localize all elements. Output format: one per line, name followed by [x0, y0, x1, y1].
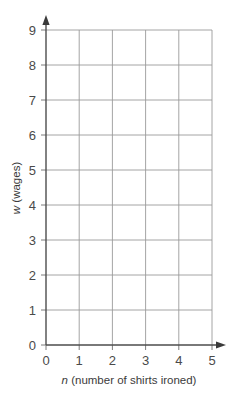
chart-canvas: 0 1 2 3 4 5 6 7 8 9 0 1 2 3 4 5 n (numbe…: [0, 0, 234, 400]
y-tick-label-7: 7: [29, 93, 36, 108]
x-axis-label-text: (number of shirts ironed): [68, 374, 197, 386]
y-tick-label-4: 4: [29, 198, 36, 213]
x-tick-label-0: 0: [42, 353, 49, 368]
y-tick-label-5: 5: [29, 163, 36, 178]
y-tick-label-9: 9: [29, 23, 36, 38]
x-tick-label-2: 2: [109, 353, 116, 368]
y-tick-label-1: 1: [29, 303, 36, 318]
y-axis-label: w (wages): [10, 162, 22, 215]
coordinate-grid-chart: 0 1 2 3 4 5 6 7 8 9 0 1 2 3 4 5 n (numbe…: [0, 0, 234, 400]
y-tick-label-0: 0: [29, 338, 36, 353]
y-tick-label-2: 2: [29, 268, 36, 283]
y-tick-label-6: 6: [29, 128, 36, 143]
x-tick-label-4: 4: [175, 353, 182, 368]
y-tick-label-3: 3: [29, 233, 36, 248]
y-tick-label-8: 8: [29, 58, 36, 73]
y-axis-label-text: (wages): [10, 162, 22, 206]
x-tick-label-1: 1: [76, 353, 83, 368]
x-tick-label-5: 5: [208, 353, 215, 368]
x-tick-label-3: 3: [142, 353, 149, 368]
x-axis-label: n (number of shirts ironed): [62, 374, 197, 386]
